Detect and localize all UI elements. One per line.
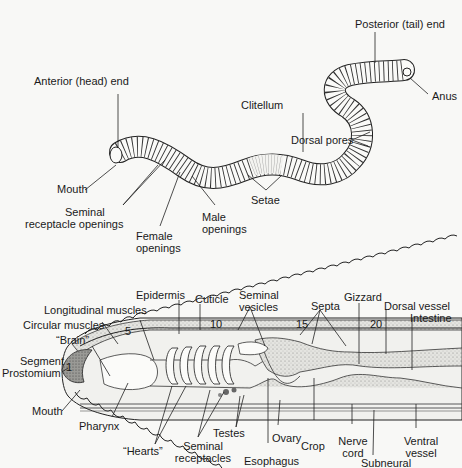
label-line-1: Seminal [25,206,125,218]
label-gizzard: Gizzard [344,291,382,303]
label-line-2: receptacles [172,452,234,464]
label-setae: Setae [251,194,280,206]
segment-number-15: 15 [296,318,308,330]
label-posterior-end: Posterior (tail) end [355,18,445,30]
label-dorsal-vessel: Dorsal vessel [384,300,450,312]
segment-number-20: 20 [370,318,382,330]
label-male-openings: Male openings [202,211,247,235]
label-intestine: Intestine [410,312,452,324]
label-septa: Septa [311,300,340,312]
segment-number-10: 10 [210,318,222,330]
label-line-1: Seminal [172,440,234,452]
segment-number-1: 1 [66,361,72,373]
label-line-1: Seminal [239,289,279,301]
worm-internal-section [62,235,462,468]
label-dorsal-pores: Dorsal pores [291,134,353,146]
label-seminal-receptacles: Seminal receptacles [172,440,234,464]
label-prostomium: Prostomium [2,367,61,379]
label-line-2: openings [202,223,247,235]
label-line-2: receptacle openings [25,218,125,230]
segment-number-5: 5 [125,325,131,337]
label-pharynx: Pharynx [79,420,119,432]
label-line-2: vessel [398,447,444,459]
label-seminal-receptacle-openings: Seminal receptacle openings [25,206,125,230]
label-ovary: Ovary [272,432,301,444]
label-seminal-vesicles: Seminal vesicles [239,289,279,313]
label-anterior-end: Anterior (head) end [34,75,129,87]
label-longitudinal-muscles: Longitudinal muscles [44,304,147,316]
label-hearts: “Hearts” [123,445,163,457]
label-esophagus: Esophagus [244,455,299,467]
label-brain: “Brain” [56,334,89,346]
label-clitellum: Clitellum [241,99,283,111]
label-line-1: Nerve [333,435,373,447]
label-anus: Anus [432,90,457,102]
label-line-2: vesicles [239,301,279,313]
label-line-1: Female [136,230,181,242]
label-epidermis: Epidermis [136,289,185,301]
label-segment: Segment [20,355,64,367]
worm-external-body [110,68,411,178]
label-circular-muscles: Circular muscles [23,319,104,331]
label-crop: Crop [301,440,325,452]
label-line-1: Ventral [398,435,444,447]
label-mouth-external: Mouth [57,183,88,195]
label-line-1: Male [202,211,247,223]
label-mouth-internal: Mouth [32,405,63,417]
label-cuticle: Cuticle [195,293,229,305]
label-female-openings: Female openings [136,230,181,254]
label-line-2: openings [136,242,181,254]
label-testes: Testes [213,427,245,439]
label-ventral-vessel: Ventral vessel [398,435,444,459]
label-nerve-cord: Nerve cord [333,435,373,459]
